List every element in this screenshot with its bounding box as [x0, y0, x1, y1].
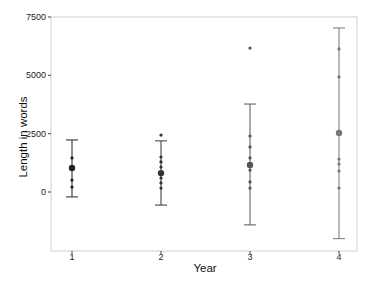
data-point [70, 179, 73, 182]
data-point [248, 46, 251, 49]
mean-point [158, 170, 164, 176]
mean-point [336, 130, 342, 136]
data-point [337, 162, 340, 165]
data-point [159, 181, 162, 184]
data-point [159, 186, 162, 189]
y-tick-label: 0 [41, 187, 46, 197]
x-axis-title: Year [193, 262, 216, 274]
data-point [248, 180, 251, 183]
data-point [159, 165, 162, 168]
data-point [248, 186, 251, 189]
data-point [159, 133, 162, 136]
mean-point [247, 162, 253, 168]
x-axis: 1234 [69, 251, 341, 262]
data-point [337, 75, 340, 78]
data-point [159, 155, 162, 158]
y-axis: 0250050007500 [26, 12, 51, 197]
data-point [337, 47, 340, 50]
data-point [337, 158, 340, 161]
data-point [248, 145, 251, 148]
plot-area [51, 17, 357, 251]
data-point [248, 134, 251, 137]
data-point [159, 176, 162, 179]
data-point [70, 156, 73, 159]
y-tick-label: 5000 [26, 70, 46, 80]
y-tick-label: 7500 [26, 12, 46, 22]
x-tick-label: 3 [247, 252, 252, 262]
chart: 0250050007500 1234 Year Length in words [0, 0, 375, 286]
data-point [248, 156, 251, 159]
data-point [159, 160, 162, 163]
x-tick-label: 1 [69, 252, 74, 262]
data-point [337, 169, 340, 172]
x-tick-label: 2 [158, 252, 163, 262]
mean-point [69, 165, 75, 171]
x-tick-label: 4 [336, 252, 341, 262]
data-point [70, 186, 73, 189]
data-point [337, 186, 340, 189]
y-axis-title: Length in words [17, 96, 29, 177]
data-point [248, 168, 251, 171]
